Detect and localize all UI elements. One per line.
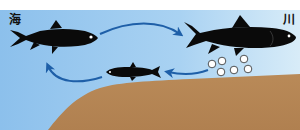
sea-label: 海 <box>9 14 21 26</box>
diagram-canvas <box>0 0 300 130</box>
salmon-lifecycle-diagram: 海 川 <box>0 0 300 130</box>
river-label: 川 <box>283 14 295 26</box>
